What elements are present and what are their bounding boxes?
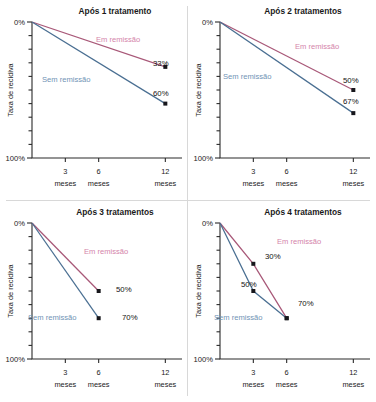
panel-title: Após 2 tratamentos <box>264 6 342 16</box>
x-tick-label-number: 12 <box>349 368 357 377</box>
line-series-no-remission <box>32 223 99 318</box>
y-axis-title: Taxa de recidiva <box>194 62 203 116</box>
x-tick-label-unit: meses <box>242 179 264 188</box>
data-point-marker <box>97 316 101 320</box>
data-point-marker <box>251 262 255 266</box>
chart-after-1-treatment: 0%100%Taxa de recidiva3meses6meses12mese… <box>0 0 188 201</box>
recidivism-figure: 0%100%Taxa de recidiva3meses6meses12mese… <box>0 0 376 402</box>
x-tick-label-number: 12 <box>161 368 169 377</box>
line-series-remission <box>32 22 165 67</box>
series-label-remission: Em remissão <box>277 237 321 246</box>
data-point-marker <box>351 111 355 115</box>
y-tick-label-bottom: 100% <box>194 154 214 163</box>
data-point-value-label: 33% <box>153 59 169 68</box>
x-tick-label-unit: meses <box>54 380 76 389</box>
y-tick-label-top: 0% <box>202 18 213 27</box>
axis-lines <box>32 223 182 359</box>
panel-grid: 0%100%Taxa de recidiva3meses6meses12mese… <box>0 0 376 402</box>
panel-after-2-treatments: 0%100%Taxa de recidiva3meses6meses12mese… <box>188 0 376 201</box>
line-series-remission <box>32 223 99 291</box>
line-series-no-remission <box>220 22 353 113</box>
series-label-no-remission: Sem remissão <box>214 313 263 322</box>
panel-after-3-treatments: 0%100%Taxa de recidiva3meses6meses12mese… <box>0 201 188 402</box>
series-label-no-remission: Sem remissão <box>223 72 272 81</box>
x-tick-label-number: 6 <box>285 167 289 176</box>
x-tick-label-unit: meses <box>342 179 364 188</box>
x-tick-label-number: 3 <box>251 368 255 377</box>
x-tick-label-number: 12 <box>349 167 357 176</box>
x-tick-label-unit: meses <box>54 179 76 188</box>
panel-after-1-treatment: 0%100%Taxa de recidiva3meses6meses12mese… <box>0 0 188 201</box>
y-axis-title: Taxa de recidiva <box>6 263 15 317</box>
panel-title: Após 1 tratamento <box>79 6 152 16</box>
x-tick-label-unit: meses <box>154 380 176 389</box>
data-point-value-label: 70% <box>122 313 138 322</box>
x-tick-label-number: 12 <box>161 167 169 176</box>
data-point-marker <box>351 88 355 92</box>
panel-after-4-treatments: 0%100%Taxa de recidiva3meses6meses12mese… <box>188 201 376 402</box>
x-tick-label-unit: meses <box>88 380 110 389</box>
data-point-marker <box>163 102 167 106</box>
y-tick-label-bottom: 100% <box>6 355 26 364</box>
x-tick-label-number: 6 <box>285 368 289 377</box>
chart-after-2-treatments: 0%100%Taxa de recidiva3meses6meses12mese… <box>188 0 376 201</box>
x-tick-label-unit: meses <box>276 179 298 188</box>
series-label-remission: Em remissão <box>84 247 128 256</box>
series-label-remission: Em remissão <box>295 42 339 51</box>
y-tick-label-top: 0% <box>14 18 25 27</box>
chart-after-4-treatments: 0%100%Taxa de recidiva3meses6meses12mese… <box>188 201 376 402</box>
x-tick-label-unit: meses <box>242 380 264 389</box>
y-axis-title: Taxa de recidiva <box>194 263 203 317</box>
x-tick-label-unit: meses <box>276 380 298 389</box>
x-tick-label-number: 6 <box>97 368 101 377</box>
data-point-value-label: 50% <box>241 280 257 289</box>
data-point-marker <box>285 316 289 320</box>
x-tick-label-unit: meses <box>342 380 364 389</box>
data-point-value-label: 70% <box>298 299 314 308</box>
y-axis-title: Taxa de recidiva <box>6 62 15 116</box>
series-label-no-remission: Sem remissão <box>42 75 91 84</box>
x-tick-label-number: 3 <box>63 167 67 176</box>
y-tick-label-top: 0% <box>14 219 25 228</box>
y-tick-label-bottom: 100% <box>194 355 214 364</box>
x-tick-label-number: 3 <box>63 368 67 377</box>
panel-title: Após 4 tratamentos <box>264 207 342 217</box>
series-label-remission: Em remissão <box>96 35 140 44</box>
x-tick-label-number: 6 <box>97 167 101 176</box>
data-point-value-label: 50% <box>343 76 359 85</box>
x-tick-label-number: 3 <box>251 167 255 176</box>
data-point-value-label: 67% <box>343 97 359 106</box>
y-tick-label-top: 0% <box>202 219 213 228</box>
data-point-value-label: 30% <box>265 252 281 261</box>
y-tick-label-bottom: 100% <box>6 154 26 163</box>
series-label-no-remission: Sem remissão <box>28 313 77 322</box>
panel-title: Após 3 tratamentos <box>76 207 154 217</box>
x-tick-label-unit: meses <box>154 179 176 188</box>
data-point-value-label: 60% <box>153 89 169 98</box>
data-point-value-label: 50% <box>116 285 132 294</box>
data-point-marker <box>251 289 255 293</box>
x-tick-label-unit: meses <box>88 179 110 188</box>
data-point-marker <box>97 289 101 293</box>
chart-after-3-treatments: 0%100%Taxa de recidiva3meses6meses12mese… <box>0 201 188 402</box>
